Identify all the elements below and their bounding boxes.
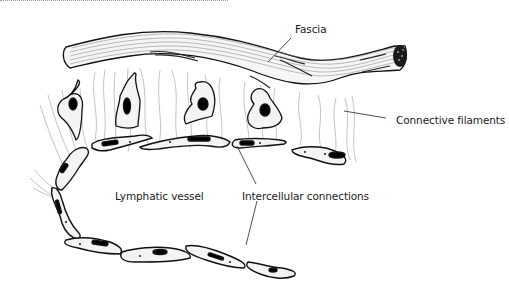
intercellular-connections-leader-line-upper xyxy=(237,146,256,184)
label-lymphatic-vessel: Lymphatic vessel xyxy=(115,190,204,202)
label-fascia: Fascia xyxy=(295,23,327,35)
lymphatic-illustration xyxy=(0,0,509,289)
diagram-canvas: Fascia Connective filaments Lymphatic ve… xyxy=(0,0,509,289)
label-intercellular-connections: Intercellular connections xyxy=(242,190,369,202)
connective-filaments-leader-line xyxy=(344,111,386,118)
fascia-band xyxy=(63,32,407,88)
intercellular-connections-leader-line-lower xyxy=(246,201,257,245)
lymphatic-vessel-cells xyxy=(52,135,346,278)
label-connective-filaments: Connective filaments xyxy=(396,114,505,126)
